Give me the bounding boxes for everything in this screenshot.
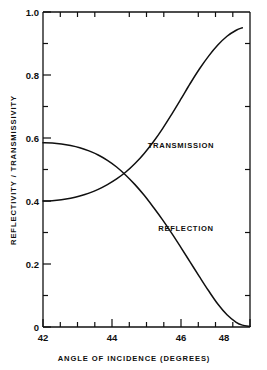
y-axis-right-ticks — [245, 44, 250, 296]
x-axis-title: ANGLE OF INCIDENCE (DEGREES) — [58, 354, 211, 363]
y-tick-label: 0.6 — [26, 133, 39, 144]
x-axis-ticks — [43, 319, 250, 327]
y-tick-labels: 1.0 0.8 0.6 0.4 0.2 0 — [26, 7, 40, 333]
curve-annotations: TRANSMISSION REFLECTION — [148, 141, 215, 233]
reflectivity-transmissivity-chart: 1.0 0.8 0.6 0.4 0.2 0 42 44 46 48 ANGLE … — [0, 0, 267, 370]
y-tick-label: 1.0 — [26, 7, 39, 18]
x-tick-labels: 42 44 46 48 — [38, 332, 230, 343]
reflection-label: REFLECTION — [158, 224, 214, 233]
x-tick-label: 42 — [38, 332, 49, 343]
y-tick-label: 0.2 — [26, 259, 39, 270]
data-curves — [43, 28, 250, 327]
figure-container: 1.0 0.8 0.6 0.4 0.2 0 42 44 46 48 ANGLE … — [0, 0, 267, 370]
reflection-curve — [43, 143, 250, 327]
y-axis-ticks — [43, 12, 51, 327]
x-tick-label: 44 — [107, 332, 118, 343]
transmission-label: TRANSMISSION — [148, 141, 215, 150]
x-tick-label: 46 — [176, 332, 187, 343]
y-tick-label: 0.8 — [26, 70, 39, 81]
transmission-curve — [43, 28, 242, 201]
plot-frame — [43, 12, 250, 327]
x-axis-top-ticks — [60, 12, 233, 17]
y-tick-label: 0.4 — [26, 196, 40, 207]
y-axis-title: REFLECTIVITY / TRANSMISSIVITY — [9, 95, 18, 245]
x-tick-label: 48 — [219, 332, 230, 343]
